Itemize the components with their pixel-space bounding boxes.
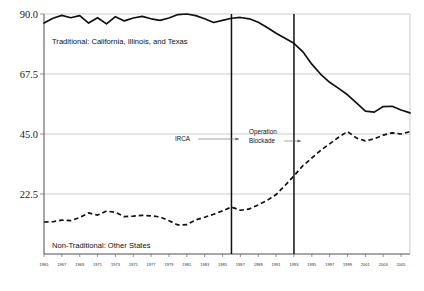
line-chart: 90.067.545.022.5 19651967196919711973197… — [0, 0, 424, 291]
x-tick-label-1991: 1991 — [272, 262, 281, 267]
annotation-label-operation-blockade-line1: Operation — [249, 128, 277, 136]
x-tick-label-1981: 1981 — [182, 262, 191, 267]
y-tick-label-22.5: 22.5 — [20, 189, 38, 200]
x-tick-label-1985: 1985 — [218, 262, 227, 267]
x-tick-label-1987: 1987 — [236, 262, 245, 267]
x-axis-tick-labels: 1965196719691971197319751977197919811983… — [39, 262, 405, 267]
x-tick-label-1989: 1989 — [254, 262, 263, 267]
x-tick-label-2001: 2001 — [361, 262, 370, 267]
series-label-nontraditional: Non-Traditional: Other States — [52, 241, 151, 250]
x-tick-label-2005: 2005 — [397, 262, 406, 267]
x-tick-label-2003: 2003 — [379, 262, 388, 267]
y-tick-label-67.5: 67.5 — [20, 69, 38, 80]
y-axis-tick-marks — [40, 14, 44, 194]
x-tick-label-1971: 1971 — [93, 262, 102, 267]
x-tick-label-1979: 1979 — [164, 262, 173, 267]
x-tick-label-1995: 1995 — [307, 262, 316, 267]
y-axis-tick-labels: 90.067.545.022.5 — [20, 9, 38, 200]
x-tick-label-1983: 1983 — [200, 262, 209, 267]
series-label-traditional: Traditional: California, Illinois, and T… — [52, 37, 188, 46]
y-tick-label-45.0: 45.0 — [20, 129, 38, 140]
y-tick-label-90.0: 90.0 — [20, 9, 38, 20]
x-tick-label-1997: 1997 — [325, 262, 334, 267]
x-tick-label-1967: 1967 — [57, 262, 66, 267]
x-tick-label-1973: 1973 — [111, 262, 120, 267]
x-tick-label-1975: 1975 — [129, 262, 138, 267]
x-tick-label-1993: 1993 — [289, 262, 298, 267]
chart-canvas: 90.067.545.022.5 19651967196919711973197… — [0, 0, 424, 291]
x-tick-label-1965: 1965 — [39, 262, 48, 267]
x-tick-label-1969: 1969 — [75, 262, 84, 267]
annotation-label-operation-blockade-line2: Blockade — [249, 137, 275, 144]
x-tick-label-1977: 1977 — [147, 262, 156, 267]
x-tick-label-1999: 1999 — [343, 262, 352, 267]
x-axis-tick-marks — [44, 254, 401, 257]
annotation-label-irca: IRCA — [175, 135, 191, 142]
